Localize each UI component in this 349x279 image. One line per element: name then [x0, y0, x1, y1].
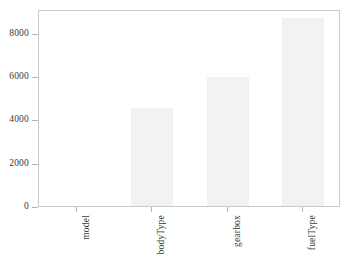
x-tick-mark: [151, 207, 152, 212]
y-tick-mark: [32, 207, 38, 208]
x-tick-label-fuelType: fuelType: [307, 215, 317, 250]
y-tick-label: 4000: [0, 114, 29, 124]
y-tick-mark: [32, 164, 38, 165]
bars-layer: [39, 11, 339, 206]
x-tick-mark: [76, 207, 77, 212]
x-tick-label-model: model: [81, 215, 91, 240]
y-tick-label: 8000: [0, 28, 29, 38]
bar-gearbox: [207, 77, 249, 206]
x-tick-mark: [302, 207, 303, 212]
y-tick-mark: [32, 34, 38, 35]
bar-fuelType: [282, 18, 324, 206]
x-tick-label-gearbox: gearbox: [232, 215, 242, 247]
x-tick-mark: [227, 207, 228, 212]
y-tick-mark: [32, 120, 38, 121]
y-tick-label: 0: [0, 201, 29, 211]
y-tick-label: 6000: [0, 71, 29, 81]
bar-chart: 80006000400020000 modelbodyTypegearboxfu…: [0, 0, 349, 279]
y-axis-line: [38, 10, 39, 207]
x-tick-label-bodyType: bodyType: [156, 215, 166, 254]
bar-bodyType: [131, 108, 173, 206]
y-tick-mark: [32, 77, 38, 78]
y-tick-label: 2000: [0, 158, 29, 168]
plot-area: [38, 10, 340, 207]
